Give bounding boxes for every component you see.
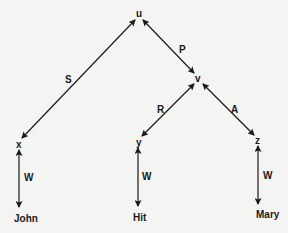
edge-label-s: S: [65, 74, 72, 85]
leaf-john: John: [14, 213, 38, 224]
edge-label-a: A: [231, 104, 238, 115]
node-x: x: [16, 139, 22, 150]
edge-label-r: R: [157, 104, 165, 115]
leaf-mary: Mary: [256, 209, 280, 220]
edge-label-w-hit: W: [142, 171, 152, 182]
edge-u-x: [22, 20, 135, 138]
node-u: u: [136, 8, 142, 19]
node-y: y: [136, 137, 142, 148]
node-z: z: [255, 135, 260, 146]
edge-label-w-mary: W: [263, 170, 273, 181]
edge-v-z: [203, 84, 254, 135]
edge-v-y: [142, 84, 194, 136]
edge-u-v: [143, 20, 194, 73]
leaf-hit: Hit: [133, 212, 147, 223]
semantic-network-diagram: u v x y z S P R A W W W John Hit Mary: [0, 0, 288, 233]
node-v: v: [195, 73, 201, 84]
edge-label-w-john: W: [24, 172, 34, 183]
edge-label-p: P: [179, 44, 186, 55]
